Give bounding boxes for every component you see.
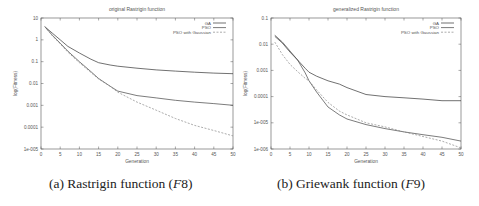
y-tick-label: 0.01 <box>259 42 268 47</box>
y-tick-label: 0.1 <box>32 59 39 64</box>
x-tick-label: 50 <box>230 152 236 157</box>
y-axis-label: log(Fitness) <box>243 71 248 96</box>
series-line-pso <box>45 27 233 106</box>
x-tick-label: 40 <box>420 152 426 157</box>
x-tick-label: 50 <box>458 152 464 157</box>
x-tick-label: 35 <box>401 152 407 157</box>
y-tick-label: 0.0001 <box>24 125 38 130</box>
series-line-pso <box>275 35 461 141</box>
x-tick-label: 15 <box>96 152 102 157</box>
plot-frame <box>41 18 233 149</box>
legend-label: PSO with Gaussian <box>401 30 440 35</box>
x-tick-label: 5 <box>289 152 292 157</box>
caption-a-close: ) <box>188 176 193 191</box>
legend-label: PSO with Gaussian <box>173 30 212 35</box>
x-tick-label: 45 <box>211 152 217 157</box>
caption-b-variable: F <box>406 176 414 191</box>
x-tick-label: 40 <box>192 152 198 157</box>
caption-a-text: (a) Rastrigin function ( <box>49 176 173 191</box>
x-tick-label: 25 <box>363 152 369 157</box>
y-tick-label: 10 <box>33 16 39 21</box>
x-tick-label: 5 <box>59 152 62 157</box>
y-tick-label: 1e-005 <box>24 147 39 152</box>
plot-frame <box>271 18 461 149</box>
x-tick-label: 0 <box>270 152 273 157</box>
x-tick-label: 45 <box>439 152 445 157</box>
x-tick-label: 20 <box>344 152 350 157</box>
x-tick-label: 35 <box>173 152 179 157</box>
chart-title: original Rastrigin function <box>109 6 165 12</box>
y-tick-label: 0.0001 <box>254 94 268 99</box>
x-tick-label: 30 <box>154 152 160 157</box>
y-tick-label: 0.001 <box>27 103 39 108</box>
x-tick-label: 10 <box>77 152 83 157</box>
x-tick-label: 20 <box>115 152 121 157</box>
x-axis-label: Generation <box>354 159 378 164</box>
y-tick-label: 1 <box>35 37 38 42</box>
x-tick-label: 10 <box>306 152 312 157</box>
x-tick-label: 0 <box>40 152 43 157</box>
caption-a: (a) Rastrigin function (F8) <box>49 176 193 192</box>
y-tick-label: 0.1 <box>262 16 269 21</box>
y-tick-label: 0.01 <box>29 81 38 86</box>
y-tick-label: 1e-006 <box>254 147 269 152</box>
y-axis-label: log(Fitness) <box>13 71 18 96</box>
chart-title: generalized Rastrigin function <box>333 6 399 12</box>
caption-b: (b) Griewank function (F9) <box>277 176 425 192</box>
x-tick-label: 30 <box>382 152 388 157</box>
caption-b-close: ) <box>421 176 426 191</box>
figure-canvas: original Rastrigin function0510152025303… <box>0 0 479 170</box>
x-tick-label: 15 <box>325 152 331 157</box>
y-tick-label: 0.001 <box>257 68 269 73</box>
x-tick-label: 25 <box>134 152 140 157</box>
x-axis-label: Generation <box>125 159 149 164</box>
series-line-pso-with-gaussian <box>45 27 233 136</box>
y-tick-label: 1e-005 <box>254 120 269 125</box>
caption-b-text: (b) Griewank function ( <box>277 176 406 191</box>
caption-b-number: 9 <box>414 176 421 191</box>
